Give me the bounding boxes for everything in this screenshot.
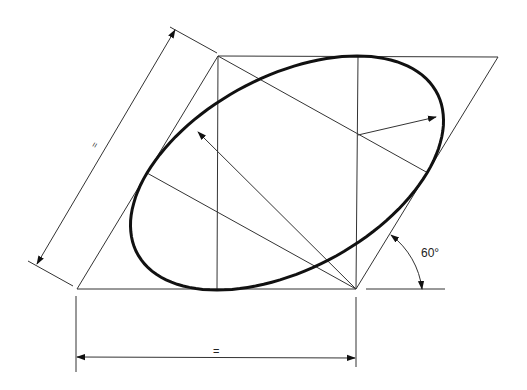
construction-diagram: [0, 0, 527, 390]
equal-label-horizontal: =: [213, 345, 219, 357]
vertical-right: [356, 57, 358, 289]
dimension-slanted: [37, 30, 175, 264]
angle-label: 60°: [421, 246, 439, 260]
dimension-horizontal: [77, 357, 355, 358]
vertical-left: [217, 56, 218, 289]
ellipse: [131, 56, 444, 290]
angle-arc: [391, 235, 422, 289]
